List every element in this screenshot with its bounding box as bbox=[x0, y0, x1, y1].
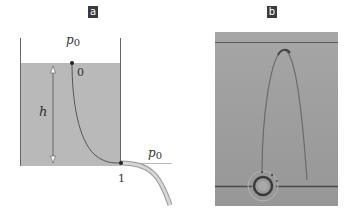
outlet-mark-1 bbox=[261, 171, 263, 173]
height-label: h bbox=[39, 104, 47, 119]
pressure-top-label: p0 bbox=[66, 33, 80, 48]
pressure-right-label: p0 bbox=[148, 146, 162, 161]
outflow-tube-inner bbox=[121, 163, 170, 205]
point-0-marker bbox=[70, 61, 74, 65]
point-1-label: 1 bbox=[118, 172, 125, 185]
outlet-mark-3 bbox=[276, 180, 278, 182]
point-1-marker bbox=[119, 161, 123, 165]
outlet-mark-2 bbox=[271, 174, 273, 176]
panel-a-diagram: p0 0 h p0 1 bbox=[0, 0, 352, 214]
point-0-label: 0 bbox=[77, 66, 84, 79]
outlet-ring-center bbox=[258, 181, 268, 191]
water-body bbox=[20, 63, 121, 166]
